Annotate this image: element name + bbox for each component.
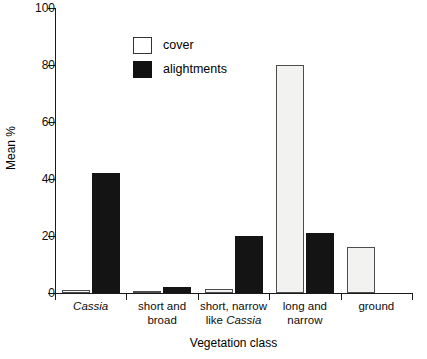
legend-label-alightments: alightments — [163, 63, 227, 76]
bar-alightments-2 — [235, 236, 263, 293]
x-axis-label-4: ground — [341, 300, 412, 314]
y-axis-tick-group: 0 — [0, 293, 55, 294]
y-axis-title: Mean % — [5, 108, 17, 188]
legend-swatch-cover-icon — [133, 37, 152, 54]
bar-cover-3 — [276, 65, 304, 293]
legend-item-cover: cover — [133, 33, 227, 57]
y-axis-tick-label: 0 — [11, 287, 55, 299]
x-axis-tick — [198, 293, 199, 300]
x-axis-tick — [412, 293, 413, 300]
bar-alightments-0 — [92, 173, 120, 293]
x-axis-title: Vegetation class — [55, 337, 412, 349]
y-axis-tick-group: 20 — [0, 236, 55, 237]
bar-cover-4 — [347, 247, 375, 293]
x-axis-label-0: Cassia — [55, 300, 126, 314]
y-axis-tick-label: 40 — [11, 173, 55, 185]
y-axis-tick-group: 80 — [0, 65, 55, 66]
legend: cover alightments — [133, 33, 227, 81]
x-axis-tick — [269, 293, 270, 300]
x-axis-tick — [126, 293, 127, 300]
bar-alightments-3 — [306, 233, 334, 293]
y-axis-tick-label: 100 — [11, 2, 55, 14]
legend-label-cover: cover — [163, 39, 194, 52]
y-axis-tick-label: 80 — [11, 59, 55, 71]
x-axis-label-3: long andnarrow — [269, 300, 340, 327]
bar-chart: 020406080100 Mean % Cassiashort andbroad… — [0, 0, 427, 359]
x-axis-line — [55, 293, 412, 294]
x-axis-label-1: short andbroad — [126, 300, 197, 327]
x-axis-tick — [341, 293, 342, 300]
x-axis-tick — [55, 293, 56, 300]
y-axis-tick-label: 20 — [11, 230, 55, 242]
legend-swatch-alightments-icon — [133, 61, 152, 78]
legend-item-alightments: alightments — [133, 57, 227, 81]
plot-area — [55, 8, 412, 293]
y-axis-tick-group: 100 — [0, 8, 55, 9]
x-axis-label-2: short, narrowlike Cassia — [198, 300, 269, 327]
